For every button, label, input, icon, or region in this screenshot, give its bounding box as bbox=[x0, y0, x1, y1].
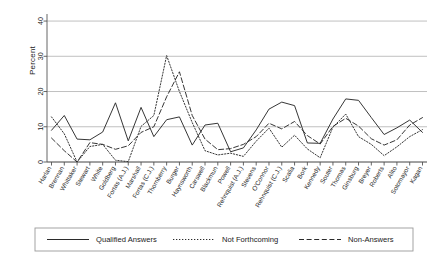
y-axis-tick-label: 0 bbox=[36, 160, 45, 164]
y-axis-tick-label: 30 bbox=[36, 52, 45, 60]
line-chart-svg: 010203040HarlanBrennanWhittakerStewartWh… bbox=[0, 0, 448, 262]
y-axis-tick-label: 10 bbox=[36, 123, 45, 131]
x-axis-tick-label: Rehnquist (A.J.) bbox=[215, 165, 245, 209]
y-axis-label: Percent bbox=[28, 31, 37, 91]
y-axis-tick-label: 20 bbox=[36, 88, 45, 96]
x-axis-tick-label: Alito bbox=[385, 165, 398, 180]
y-axis-tick-label: 40 bbox=[36, 17, 45, 25]
x-axis-tick-label: Kagan bbox=[408, 165, 424, 185]
legend-label: Non-Answers bbox=[348, 235, 394, 244]
plot-area bbox=[47, 14, 427, 162]
chart-figure: Percent 010203040HarlanBrennanWhittakerS… bbox=[0, 0, 448, 262]
legend-label: Not Forthcoming bbox=[222, 235, 278, 244]
legend-label: Qualified Answers bbox=[96, 235, 157, 244]
x-axis-tick-label: Scalia bbox=[281, 165, 296, 184]
